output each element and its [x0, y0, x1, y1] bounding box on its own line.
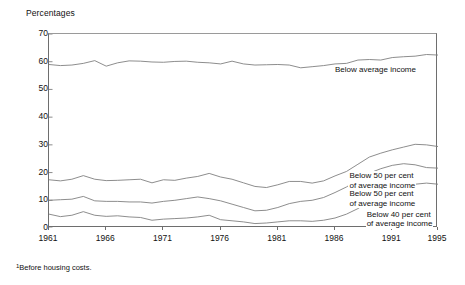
x-tick-label: 1971 [153, 233, 172, 243]
series-label-line: Below average income [335, 65, 416, 74]
x-tick-label: 1961 [39, 233, 58, 243]
series-label-below-average-income: Below average income [334, 65, 417, 75]
x-tick-mark [48, 227, 49, 230]
x-tick-mark [220, 227, 221, 230]
x-tick-label: 1991 [382, 233, 401, 243]
x-tick-label: 1995 [428, 233, 447, 243]
x-tick-label: 1976 [210, 233, 229, 243]
y-tick-label: 50 [26, 83, 48, 93]
x-tick-mark [162, 227, 163, 230]
series-label-line: Below 40 per cent [367, 210, 431, 219]
x-tick-label: 1981 [267, 233, 286, 243]
x-tick-mark [277, 227, 278, 230]
x-tick-label: 1966 [96, 233, 115, 243]
series-label-line: Below 50 per cent [349, 189, 413, 198]
percentages-line-chart: Percentages 010203040506070 196119661971… [0, 0, 465, 285]
series-label-below-50-upper: Below 50 per cent of average income [348, 171, 416, 190]
x-tick-label: 1986 [325, 233, 344, 243]
series-label-line: of average income [349, 199, 415, 208]
y-tick-label: 30 [26, 139, 48, 149]
y-tick-label: 10 [26, 194, 48, 204]
series-label-below-50-middle: Below 50 per cent of average income [348, 189, 416, 208]
footnote-text: Before housing costs. [19, 263, 91, 272]
y-tick-label: 60 [26, 56, 48, 66]
footnote: 1Before housing costs. [16, 263, 91, 272]
series-label-below-40: Below 40 per cent of average income [366, 210, 434, 229]
x-tick-mark [105, 227, 106, 230]
y-tick-label: 20 [26, 167, 48, 177]
chart-axis-title: Percentages [26, 8, 75, 18]
x-tick-mark [437, 227, 438, 230]
y-axis: 010203040506070 [22, 33, 48, 227]
y-tick-label: 70 [26, 28, 48, 38]
y-tick-label: 40 [26, 111, 48, 121]
x-axis: 19611966197119761981198619911995 [48, 227, 437, 249]
y-tick-label: 0 [26, 222, 48, 232]
x-tick-mark [334, 227, 335, 230]
series-label-line: Below 50 per cent [349, 171, 413, 180]
series-label-line: of average income [367, 219, 433, 228]
